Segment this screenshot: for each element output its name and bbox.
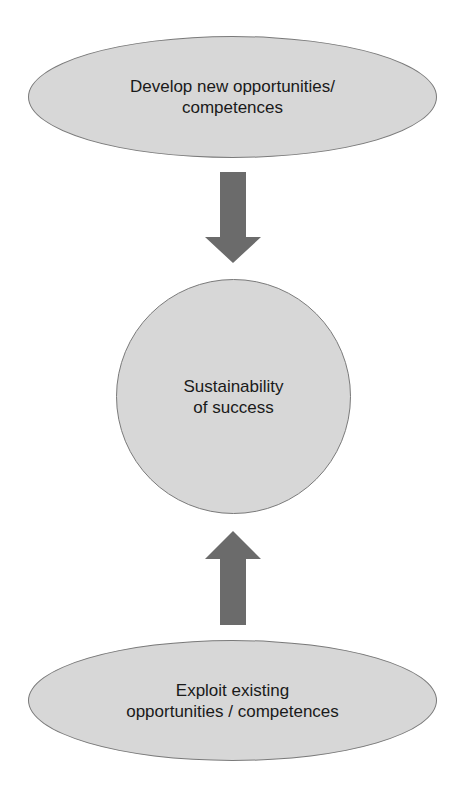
node-label: Exploit existing opportunities / compete…: [126, 680, 339, 722]
node-label-line: Exploit existing: [126, 680, 339, 701]
node-label: Develop new opportunities/ competences: [130, 76, 335, 118]
arrow-down-icon: [205, 172, 261, 263]
node-label-line: of success: [183, 397, 283, 418]
exploit-existing-opportunities-node: Exploit existing opportunities / compete…: [28, 640, 437, 761]
node-label-line: Develop new opportunities/: [130, 76, 335, 97]
node-label: Sustainability of success: [183, 376, 283, 418]
node-label-line: opportunities / competences: [126, 701, 339, 722]
sustainability-of-success-node: Sustainability of success: [116, 279, 351, 514]
diagram-canvas: Develop new opportunities/ competences S…: [0, 0, 463, 785]
node-label-line: competences: [130, 97, 335, 118]
develop-new-opportunities-node: Develop new opportunities/ competences: [28, 36, 437, 158]
node-label-line: Sustainability: [183, 376, 283, 397]
arrow-up-icon: [205, 531, 261, 625]
